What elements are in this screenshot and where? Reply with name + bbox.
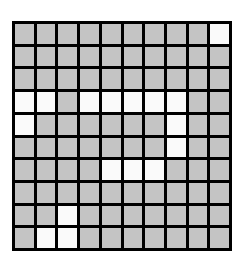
grid-cell-r7-c4[interactable] <box>102 183 121 203</box>
grid-cell-r8-c4[interactable] <box>102 206 121 226</box>
grid-cell-r8-c7[interactable] <box>167 206 186 226</box>
grid-cell-r9-c7[interactable] <box>167 228 186 248</box>
grid-cell-r3-c6[interactable] <box>145 92 164 112</box>
grid-cell-r1-c9[interactable] <box>210 47 229 67</box>
grid-cell-r8-c2[interactable] <box>58 206 77 226</box>
grid-cell-r9-c3[interactable] <box>80 228 99 248</box>
grid-cell-r9-c9[interactable] <box>210 228 229 248</box>
grid-cell-r3-c8[interactable] <box>189 92 208 112</box>
grid-cell-r6-c3[interactable] <box>80 160 99 180</box>
grid-cell-r9-c0[interactable] <box>15 228 34 248</box>
grid-cell-r1-c6[interactable] <box>145 47 164 67</box>
grid-cell-r3-c1[interactable] <box>37 92 56 112</box>
grid-cell-r7-c5[interactable] <box>124 183 143 203</box>
grid-cell-r5-c7[interactable] <box>167 138 186 158</box>
grid-cell-r6-c5[interactable] <box>124 160 143 180</box>
grid-cell-r2-c7[interactable] <box>167 69 186 89</box>
grid-cell-r2-c1[interactable] <box>37 69 56 89</box>
grid-cell-r4-c7[interactable] <box>167 115 186 135</box>
grid-cell-r1-c7[interactable] <box>167 47 186 67</box>
grid-cell-r2-c5[interactable] <box>124 69 143 89</box>
grid-cell-r3-c2[interactable] <box>58 92 77 112</box>
grid-cell-r2-c6[interactable] <box>145 69 164 89</box>
grid-cell-r8-c9[interactable] <box>210 206 229 226</box>
grid-cell-r6-c0[interactable] <box>15 160 34 180</box>
grid-cell-r0-c4[interactable] <box>102 24 121 44</box>
grid-cell-r2-c4[interactable] <box>102 69 121 89</box>
grid-cell-r6-c1[interactable] <box>37 160 56 180</box>
grid-cell-r9-c5[interactable] <box>124 228 143 248</box>
grid-cell-r0-c3[interactable] <box>80 24 99 44</box>
grid-cell-r2-c9[interactable] <box>210 69 229 89</box>
grid-cell-r7-c1[interactable] <box>37 183 56 203</box>
grid-cell-r1-c4[interactable] <box>102 47 121 67</box>
grid-cell-r4-c6[interactable] <box>145 115 164 135</box>
grid-cell-r7-c9[interactable] <box>210 183 229 203</box>
grid-cell-r7-c8[interactable] <box>189 183 208 203</box>
grid-cell-r3-c5[interactable] <box>124 92 143 112</box>
grid-cell-r2-c2[interactable] <box>58 69 77 89</box>
grid-cell-r7-c3[interactable] <box>80 183 99 203</box>
grid-cell-r5-c5[interactable] <box>124 138 143 158</box>
grid-cell-r8-c6[interactable] <box>145 206 164 226</box>
grid-cell-r1-c5[interactable] <box>124 47 143 67</box>
grid-cell-r5-c0[interactable] <box>15 138 34 158</box>
grid-cell-r4-c1[interactable] <box>37 115 56 135</box>
grid-cell-r5-c6[interactable] <box>145 138 164 158</box>
grid-cell-r6-c4[interactable] <box>102 160 121 180</box>
grid-cell-r1-c3[interactable] <box>80 47 99 67</box>
grid-cell-r8-c5[interactable] <box>124 206 143 226</box>
grid-cell-r1-c0[interactable] <box>15 47 34 67</box>
grid-cell-r9-c6[interactable] <box>145 228 164 248</box>
grid-cell-r8-c0[interactable] <box>15 206 34 226</box>
grid-cell-r0-c0[interactable] <box>15 24 34 44</box>
grid-cell-r4-c9[interactable] <box>210 115 229 135</box>
grid-cell-r3-c9[interactable] <box>210 92 229 112</box>
grid-cell-r2-c3[interactable] <box>80 69 99 89</box>
grid-cell-r0-c9[interactable] <box>210 24 229 44</box>
grid-cell-r8-c3[interactable] <box>80 206 99 226</box>
grid-cell-r0-c6[interactable] <box>145 24 164 44</box>
grid-cell-r0-c7[interactable] <box>167 24 186 44</box>
grid-cell-r0-c8[interactable] <box>189 24 208 44</box>
grid-cell-r4-c4[interactable] <box>102 115 121 135</box>
grid-cell-r5-c9[interactable] <box>210 138 229 158</box>
grid-cell-r3-c3[interactable] <box>80 92 99 112</box>
grid-cell-r6-c2[interactable] <box>58 160 77 180</box>
grid-cell-r7-c2[interactable] <box>58 183 77 203</box>
grid-cell-r3-c0[interactable] <box>15 92 34 112</box>
grid-cell-r1-c1[interactable] <box>37 47 56 67</box>
grid-cell-r5-c1[interactable] <box>37 138 56 158</box>
grid-cell-r3-c4[interactable] <box>102 92 121 112</box>
grid-cell-r4-c0[interactable] <box>15 115 34 135</box>
grid-cell-r4-c3[interactable] <box>80 115 99 135</box>
grid-cell-r0-c5[interactable] <box>124 24 143 44</box>
grid-cell-r0-c1[interactable] <box>37 24 56 44</box>
grid-cell-r6-c6[interactable] <box>145 160 164 180</box>
grid-cell-r6-c8[interactable] <box>189 160 208 180</box>
grid-cell-r9-c2[interactable] <box>58 228 77 248</box>
grid-cell-r2-c8[interactable] <box>189 69 208 89</box>
grid-cell-r2-c0[interactable] <box>15 69 34 89</box>
grid-cell-r9-c1[interactable] <box>37 228 56 248</box>
grid-cell-r8-c1[interactable] <box>37 206 56 226</box>
grid-cell-r1-c2[interactable] <box>58 47 77 67</box>
grid-cell-r7-c0[interactable] <box>15 183 34 203</box>
grid-cell-r1-c8[interactable] <box>189 47 208 67</box>
grid-cell-r5-c4[interactable] <box>102 138 121 158</box>
grid-cell-r8-c8[interactable] <box>189 206 208 226</box>
grid-cell-r0-c2[interactable] <box>58 24 77 44</box>
grid-cell-r5-c8[interactable] <box>189 138 208 158</box>
grid-cell-r3-c7[interactable] <box>167 92 186 112</box>
grid-cell-r7-c7[interactable] <box>167 183 186 203</box>
grid-cell-r9-c4[interactable] <box>102 228 121 248</box>
grid-cell-r4-c8[interactable] <box>189 115 208 135</box>
grid-cell-r9-c8[interactable] <box>189 228 208 248</box>
grid-cell-r4-c5[interactable] <box>124 115 143 135</box>
grid-cell-r5-c3[interactable] <box>80 138 99 158</box>
grid-cell-r6-c9[interactable] <box>210 160 229 180</box>
grid-cell-r4-c2[interactable] <box>58 115 77 135</box>
grid-cell-r6-c7[interactable] <box>167 160 186 180</box>
grid-cell-r5-c2[interactable] <box>58 138 77 158</box>
grid-cell-r7-c6[interactable] <box>145 183 164 203</box>
